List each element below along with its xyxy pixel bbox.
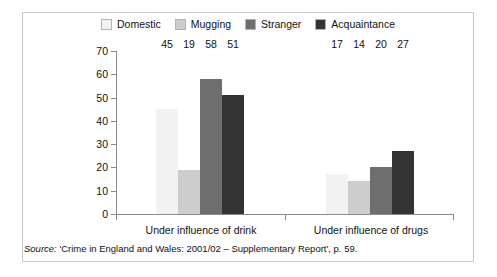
bar-stranger-drink[interactable] xyxy=(200,79,222,214)
bar-value-label: 20 xyxy=(375,39,387,50)
bar-slot-domestic-drugs[interactable]: 17 xyxy=(326,51,348,214)
bar-group-drugs: 17 14 20 27 xyxy=(326,51,416,214)
source-label: Source: xyxy=(24,243,57,254)
bar-slot-stranger-drink[interactable]: 58 xyxy=(200,51,222,214)
bar-acquaintance-drink[interactable] xyxy=(222,95,244,214)
bar-mugging-drink[interactable] xyxy=(178,170,200,214)
legend-swatch-stranger xyxy=(245,19,256,30)
bar-acquaintance-drugs[interactable] xyxy=(392,151,414,214)
bar-value-label: 14 xyxy=(353,39,365,50)
bar-domestic-drugs[interactable] xyxy=(326,174,348,214)
bar-slot-mugging-drink[interactable]: 19 xyxy=(178,51,200,214)
source-caption: Source: 'Crime in England and Wales: 200… xyxy=(24,244,357,254)
legend-label-acquaintance: Acquaintance xyxy=(331,19,395,30)
bar-value-label: 17 xyxy=(331,39,343,50)
bar-value-label: 27 xyxy=(397,39,409,50)
y-tick-label: 70 xyxy=(96,46,108,57)
y-tick-label: 40 xyxy=(96,116,108,127)
legend-label-stranger: Stranger xyxy=(261,19,301,30)
bar-value-label: 58 xyxy=(205,39,217,50)
bar-stranger-drugs[interactable] xyxy=(370,167,392,214)
legend-swatch-acquaintance xyxy=(315,19,326,30)
y-tick-label: 0 xyxy=(102,209,108,220)
plot-area: Percentage of violent incidents 70 60 50… xyxy=(116,51,454,225)
bar-value-label: 19 xyxy=(183,39,195,50)
x-axis-label-drink: Under influence of drink xyxy=(146,225,257,236)
y-tick-label: 50 xyxy=(96,92,108,103)
x-tick-start xyxy=(116,215,117,220)
bar-slot-stranger-drugs[interactable]: 20 xyxy=(370,51,392,214)
bar-slot-domestic-drink[interactable]: 45 xyxy=(156,51,178,214)
bar-slot-mugging-drugs[interactable]: 14 xyxy=(348,51,370,214)
bar-slot-acquaintance-drugs[interactable]: 27 xyxy=(392,51,414,214)
bar-value-label: 45 xyxy=(161,39,173,50)
x-tick-end xyxy=(453,215,454,220)
bar-slot-acquaintance-drink[interactable]: 51 xyxy=(222,51,244,214)
bar-group-drink: 45 19 58 51 xyxy=(156,51,246,214)
bar-series-container: 45 19 58 51 17 xyxy=(116,51,454,214)
legend-item-stranger: Stranger xyxy=(245,19,301,30)
x-tick-middle xyxy=(285,215,286,220)
bar-value-label: 51 xyxy=(227,39,239,50)
legend-item-acquaintance: Acquaintance xyxy=(315,19,395,30)
y-tick-label: 60 xyxy=(96,69,108,80)
bar-mugging-drugs[interactable] xyxy=(348,181,370,214)
bar-domestic-drink[interactable] xyxy=(156,109,178,214)
y-tick-label: 20 xyxy=(96,162,108,173)
y-tick-label: 10 xyxy=(96,185,108,196)
source-text: 'Crime in England and Wales: 2001/02 – S… xyxy=(57,243,358,254)
figure-container: Domestic Mugging Stranger Acquaintance P… xyxy=(22,12,474,262)
y-tick-label: 30 xyxy=(96,139,108,150)
x-axis-label-drugs: Under influence of drugs xyxy=(314,225,428,236)
